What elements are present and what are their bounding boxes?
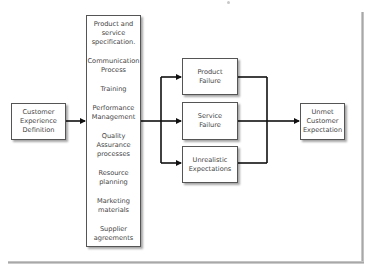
driver-text: specification. (92, 38, 136, 47)
failure-text: Unrealistic (193, 156, 228, 165)
driver-marketing: Marketing materials (97, 197, 130, 215)
failure-text: Expectations (189, 165, 232, 174)
driver-text: Resource (98, 169, 128, 178)
driver-text: service (92, 29, 136, 38)
outcome-text: Customer (306, 117, 338, 126)
driver-text: agreements (94, 234, 134, 243)
driver-text: Supplier (94, 225, 134, 234)
outcome-text: Unmet (311, 108, 333, 117)
driver-text: Training (100, 85, 126, 94)
driver-quality: Quality Assurance processes (96, 132, 130, 159)
driver-text: Product and (92, 20, 136, 29)
failure-text: Failure (199, 121, 221, 130)
driver-text: materials (97, 206, 130, 215)
source-line-3: Definition (23, 126, 55, 135)
driver-text: Assurance (96, 141, 130, 150)
outcome-text: Expectation (303, 126, 342, 135)
driver-text: Quality (96, 132, 130, 141)
customer-experience-definition-box: Customer Experience Definition (11, 103, 66, 140)
driver-product-spec: Product and service specification. (92, 20, 136, 47)
driver-text: Communication (88, 57, 140, 66)
driver-text: Performance (92, 104, 135, 113)
unmet-customer-expectation-box: Unmet Customer Expectation (300, 103, 345, 140)
product-failure-box: Product Failure (182, 58, 238, 95)
driver-performance: Performance Management (92, 104, 135, 122)
failure-text: Product (197, 68, 222, 77)
service-failure-box: Service Failure (182, 102, 238, 140)
driver-supplier: Supplier agreements (94, 225, 134, 243)
failure-text: Service (198, 112, 222, 121)
driver-resource: Resource planning (98, 169, 128, 187)
service-drivers-box: Product and service specification. Commu… (86, 15, 141, 247)
driver-text: Management (92, 113, 135, 122)
failure-text: Failure (199, 77, 221, 86)
driver-text: Process (88, 66, 140, 75)
driver-training: Training (100, 85, 126, 94)
driver-communication: Communication Process (88, 57, 140, 75)
source-line-1: Customer (22, 108, 54, 117)
driver-text: processes (96, 150, 130, 159)
driver-text: Marketing (97, 197, 130, 206)
unrealistic-expectations-box: Unrealistic Expectations (182, 146, 238, 183)
driver-text: planning (98, 178, 128, 187)
source-line-2: Experience (20, 117, 57, 126)
